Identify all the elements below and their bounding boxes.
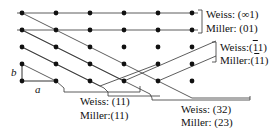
plane-11-weiss: Weiss: (11): [80, 95, 130, 108]
lattice-plane-diagram: b a Weiss: (∞1) Miller: (01) Weiss:(11) …: [0, 0, 280, 128]
plane-11-miller: Miller:(11): [80, 109, 128, 122]
plane-01-weiss: Weiss: (∞1): [206, 8, 258, 21]
axis-label-b: b: [11, 66, 17, 79]
axis-label-a: a: [35, 83, 41, 96]
plane-32-miller: Miller: (23): [181, 116, 233, 128]
plane-32-weiss: Weiss: (32): [181, 103, 231, 116]
plane-01-miller: Miller: (01): [206, 22, 258, 35]
plane-m11-weiss: Weiss:(11): [220, 41, 267, 54]
plane-m11-miller: Miller:(11): [220, 54, 268, 67]
